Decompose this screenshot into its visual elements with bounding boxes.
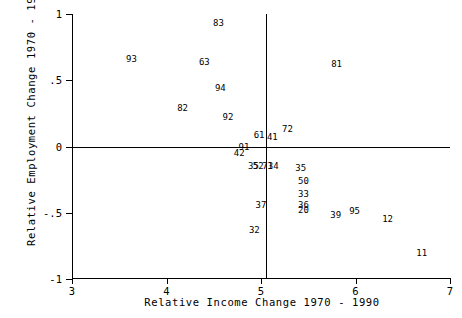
x-axis-title: Relative Income Change 1970 - 1990 [72,296,452,308]
data-point-label: 83 [213,19,224,28]
zero-reference-line-horizontal [72,147,450,148]
reference-line-vertical [266,14,267,279]
y-tick-label: 0 [22,142,62,152]
y-tick-mark [66,213,72,214]
data-point-label: 93 [126,55,137,64]
y-tick-label: .5 [22,75,62,85]
y-tick-mark [66,147,72,148]
x-tick-label: 3 [57,286,87,296]
x-tick-mark [261,278,262,284]
data-point-label: 61 [254,130,265,139]
x-tick-mark [356,278,357,284]
data-point-label: 33 [298,190,309,199]
y-tick-mark [66,14,72,15]
x-tick-label: 4 [152,286,182,296]
data-point-label: 94 [215,84,226,93]
y-tick-mark [66,80,72,81]
y-tick-label: -.5 [22,208,62,218]
data-point-label: 95 [349,207,360,216]
x-tick-mark [450,278,451,284]
x-tick-label: 5 [246,286,276,296]
scatter-plot-figure: Relative Employment Change 1970 - 1990 1… [0,0,462,318]
plot-area: 1.50-.5-1 34567 839363819482927261419142… [72,14,450,279]
data-point-label: 63 [199,57,210,66]
data-point-label: 92 [223,113,234,122]
y-tick-label: -1 [22,274,62,284]
data-point-label: 35 [295,163,306,172]
data-point-label: 81 [331,60,342,69]
data-point-label: 50 [298,176,309,185]
x-tick-label: 7 [435,286,462,296]
data-point-label: 32 [249,225,260,234]
y-tick-label: 1 [22,9,62,19]
x-tick-label: 6 [341,286,371,296]
data-point-label: 42 [234,149,245,158]
data-point-label: 20 [298,206,309,215]
x-tick-mark [167,278,168,284]
data-point-label: 11 [416,248,427,257]
x-tick-mark [72,278,73,284]
data-point-label: 72 [282,125,293,134]
data-point-label: 41 [267,133,278,142]
data-point-label: 39 [330,211,341,220]
data-point-label: 82 [177,104,188,113]
data-point-label: 37 [256,200,267,209]
data-point-label: 12 [382,215,393,224]
data-point-label: 34 [268,162,279,171]
